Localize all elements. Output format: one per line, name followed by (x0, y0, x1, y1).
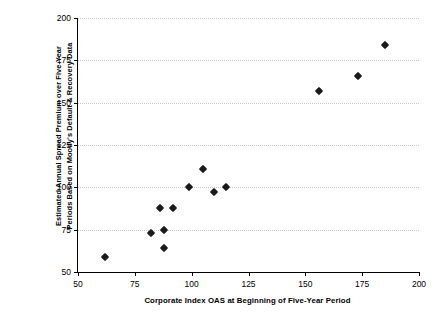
x-axis-tick-label: 175 (355, 280, 369, 289)
x-axis-tick-label: 150 (298, 280, 312, 289)
x-axis-tick (362, 272, 363, 276)
y-gridline (78, 103, 419, 104)
data-point (353, 71, 361, 79)
data-point (160, 225, 168, 233)
data-point (381, 41, 389, 49)
data-point (222, 183, 230, 191)
x-axis-tick (135, 272, 136, 276)
y-axis-tick-label: 75 (62, 225, 71, 234)
y-axis-tick-label: 200 (57, 14, 71, 23)
y-axis-tick-label: 175 (57, 56, 71, 65)
y-axis-tick (74, 103, 78, 104)
data-point (160, 244, 168, 252)
x-axis-tick (305, 272, 306, 276)
y-gridline (78, 60, 419, 61)
scatter-chart: Estimated Annual Spread Premium over Fiv… (0, 0, 432, 321)
data-point (315, 87, 323, 95)
y-gridline (78, 230, 419, 231)
plot-area: 50751001251501752005075100125150175200 (77, 18, 419, 273)
data-point (210, 188, 218, 196)
y-axis-tick (74, 18, 78, 19)
data-point (199, 164, 207, 172)
y-axis-tick (74, 187, 78, 188)
y-gridline (78, 187, 419, 188)
y-axis-tick-label: 125 (57, 141, 71, 150)
x-axis-tick-label: 200 (412, 280, 426, 289)
y-axis-tick-label: 100 (57, 183, 71, 192)
data-point (156, 203, 164, 211)
y-axis-tick-label: 150 (57, 98, 71, 107)
y-axis-tick-label: 50 (62, 268, 71, 277)
x-axis-tick (249, 272, 250, 276)
y-axis-tick (74, 145, 78, 146)
data-point (101, 253, 109, 261)
x-axis-tick-label: 125 (241, 280, 255, 289)
x-axis-tick (192, 272, 193, 276)
x-axis-title: Corporate Index OAS at Beginning of Five… (77, 296, 418, 305)
data-point (169, 203, 177, 211)
x-axis-tick-label: 100 (185, 280, 199, 289)
x-axis-tick (78, 272, 79, 276)
y-axis-tick (74, 230, 78, 231)
y-gridline (78, 145, 419, 146)
y-gridline (78, 18, 419, 19)
x-axis-tick-label: 75 (130, 280, 139, 289)
x-axis-tick-label: 50 (73, 280, 82, 289)
data-point (185, 183, 193, 191)
x-axis-tick (419, 272, 420, 276)
y-axis-tick (74, 60, 78, 61)
